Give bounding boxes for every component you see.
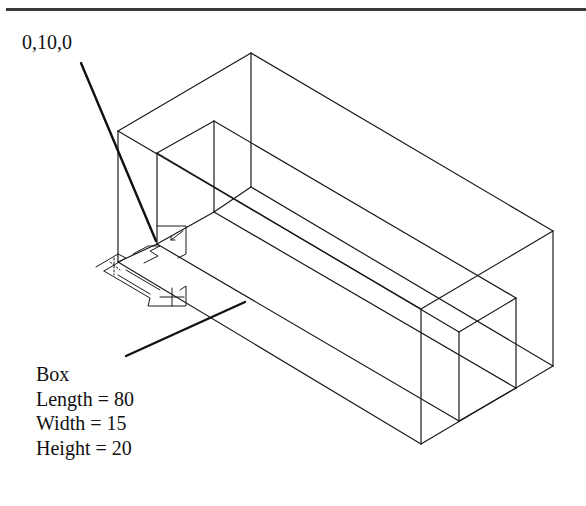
coordinate-label: 0,10,0 bbox=[22, 30, 72, 54]
spec-title: Box bbox=[36, 362, 134, 387]
inner-slot-edges bbox=[118, 121, 553, 421]
ucs-axis-icon bbox=[96, 226, 186, 306]
box-spec-block: Box Length = 80 Width = 15 Height = 20 bbox=[36, 362, 134, 460]
outer-box-edges bbox=[118, 53, 553, 444]
diagram-canvas: 0,10,0 Box Length = 80 Width = 15 Height… bbox=[0, 0, 586, 506]
spec-leader-line bbox=[126, 302, 245, 356]
spec-height: Height = 20 bbox=[36, 436, 134, 461]
spec-length: Length = 80 bbox=[36, 387, 134, 412]
spec-width: Width = 15 bbox=[36, 411, 134, 436]
